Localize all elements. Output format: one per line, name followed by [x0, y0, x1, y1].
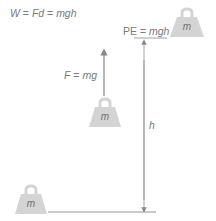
- force-equals: =: [70, 69, 82, 81]
- eq-equals-2: =: [44, 7, 56, 19]
- work-energy-diagram: W = Fd = mgh PE = mgh F = mg h m m m: [0, 0, 216, 221]
- force-label: F = mg: [64, 70, 97, 81]
- eq-equals-1: =: [20, 7, 32, 19]
- weight-mass-label: m: [14, 198, 48, 209]
- pe-equals: =: [137, 25, 149, 37]
- pe-mgh: mgh: [149, 25, 169, 37]
- height-label: h: [149, 120, 155, 131]
- force-mg: mg: [82, 69, 97, 81]
- eq-w: W: [10, 7, 20, 19]
- weight-mass-label: m: [88, 111, 122, 122]
- weight-top-right: m: [169, 6, 205, 38]
- weight-bottom-left: m: [14, 183, 48, 215]
- pe-text: PE: [123, 25, 137, 37]
- weight-mass-label: m: [169, 21, 205, 32]
- eq-fd: Fd: [32, 7, 44, 19]
- work-equation: W = Fd = mgh: [10, 8, 77, 19]
- potential-energy-label: PE = mgh: [123, 26, 169, 37]
- eq-mgh: mgh: [56, 7, 76, 19]
- weight-middle: m: [88, 96, 122, 128]
